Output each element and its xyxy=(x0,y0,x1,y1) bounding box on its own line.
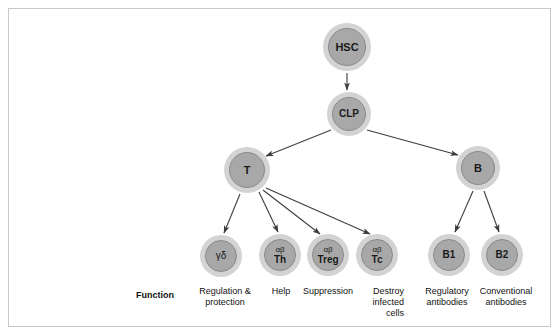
node-t-label: T xyxy=(244,165,251,176)
function-label-treg-line-1: Suppression xyxy=(296,286,360,297)
node-clp[interactable]: CLP xyxy=(327,92,371,136)
function-label-tc-line-3: cells xyxy=(352,308,404,319)
node-th-superscript: αβ xyxy=(275,246,284,254)
node-clp-label: CLP xyxy=(339,109,359,119)
arrow-t-to-tc xyxy=(266,188,370,234)
node-clp-disc: CLP xyxy=(332,97,366,131)
node-b2-disc: B2 xyxy=(486,239,518,271)
node-treg-label: Treg xyxy=(317,255,338,265)
arrow-t-to-treg xyxy=(263,190,320,234)
node-t-disc: T xyxy=(229,152,265,188)
arrow-b-to-b2 xyxy=(484,191,499,232)
node-gd-label: γδ xyxy=(216,251,227,261)
function-row-label: Function xyxy=(136,290,174,300)
node-hsc-label: HSC xyxy=(335,42,358,53)
function-label-th: Help xyxy=(265,286,297,297)
node-b1-label: B1 xyxy=(443,250,456,260)
arrow-b-to-b1 xyxy=(455,191,473,232)
function-label-th-line-1: Help xyxy=(265,286,297,297)
function-label-b2: Conventionalantibodies xyxy=(470,286,542,308)
node-th-label: Th xyxy=(274,255,286,265)
arrow-clp-to-b xyxy=(367,130,458,155)
node-b2-label: B2 xyxy=(496,250,509,260)
function-label-tc-line-1: Destroy xyxy=(352,286,404,297)
node-th[interactable]: αβTh xyxy=(259,234,301,276)
function-label-tc: Destroyinfectedcells xyxy=(352,286,404,319)
node-b-disc: B xyxy=(461,151,495,185)
node-tc-disc: αβTc xyxy=(361,239,393,271)
node-tc-label: Tc xyxy=(372,255,383,265)
node-b1-disc: B1 xyxy=(433,239,465,271)
node-hsc[interactable]: HSC xyxy=(323,23,371,71)
node-gd[interactable]: γδ xyxy=(200,235,242,277)
node-treg-disc: αβTreg xyxy=(312,239,344,271)
node-hsc-disc: HSC xyxy=(328,28,366,66)
function-label-treg: Suppression xyxy=(296,286,360,297)
node-b2[interactable]: B2 xyxy=(481,234,523,276)
node-b[interactable]: B xyxy=(456,146,500,190)
function-label-gd: Regulation &protection xyxy=(189,286,261,308)
function-label-b2-line-2: antibodies xyxy=(470,297,542,308)
function-label-b2-line-1: Conventional xyxy=(470,286,542,297)
function-label-gd-line-1: Regulation & xyxy=(189,286,261,297)
node-treg-superscript: αβ xyxy=(323,246,332,254)
node-t[interactable]: T xyxy=(224,147,270,193)
arrow-t-to-th xyxy=(259,192,278,232)
node-tc[interactable]: αβTc xyxy=(356,234,398,276)
node-th-disc: αβTh xyxy=(264,239,296,271)
diagram-canvas: HSCCLPTBγδαβThαβTregαβTcB1B2 Function Re… xyxy=(0,0,559,335)
function-label-tc-line-2: infected xyxy=(352,297,404,308)
function-label-gd-line-2: protection xyxy=(189,297,261,308)
node-tc-superscript: αβ xyxy=(372,246,381,254)
arrow-clp-to-t xyxy=(266,130,331,156)
node-gd-disc: γδ xyxy=(205,240,237,272)
node-b1[interactable]: B1 xyxy=(428,234,470,276)
node-treg[interactable]: αβTreg xyxy=(307,234,349,276)
arrow-t-to-gd xyxy=(224,194,240,233)
node-b-label: B xyxy=(474,163,482,174)
